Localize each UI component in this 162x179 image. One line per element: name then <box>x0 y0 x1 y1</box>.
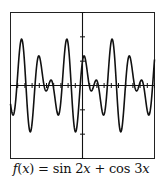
function-plot <box>0 0 162 160</box>
caption-cos: + cos 3 <box>90 161 142 176</box>
caption-sin: ) = sin 2 <box>29 161 83 176</box>
caption-x: x <box>142 161 149 176</box>
function-caption: f(x) = sin 2x + cos 3x <box>0 160 162 178</box>
